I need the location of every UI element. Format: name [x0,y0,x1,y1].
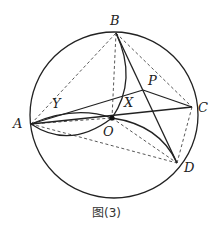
segment-AB [31,33,116,124]
figure-caption: 图(3) [92,206,121,220]
label-O: O [103,124,114,139]
point-O-dot [109,115,114,120]
segment-OD [112,118,177,163]
label-D: D [183,160,195,175]
geometry-diagram: B A C D O P X Y 图(3) [0,0,220,230]
segment-CD [177,107,192,163]
label-Y: Y [52,96,62,111]
segment-PC [143,90,192,107]
label-B: B [109,13,120,28]
label-A: A [12,116,22,131]
label-C: C [198,100,208,115]
label-X: X [123,95,134,110]
label-P: P [147,73,157,88]
segment-BO [112,33,116,118]
